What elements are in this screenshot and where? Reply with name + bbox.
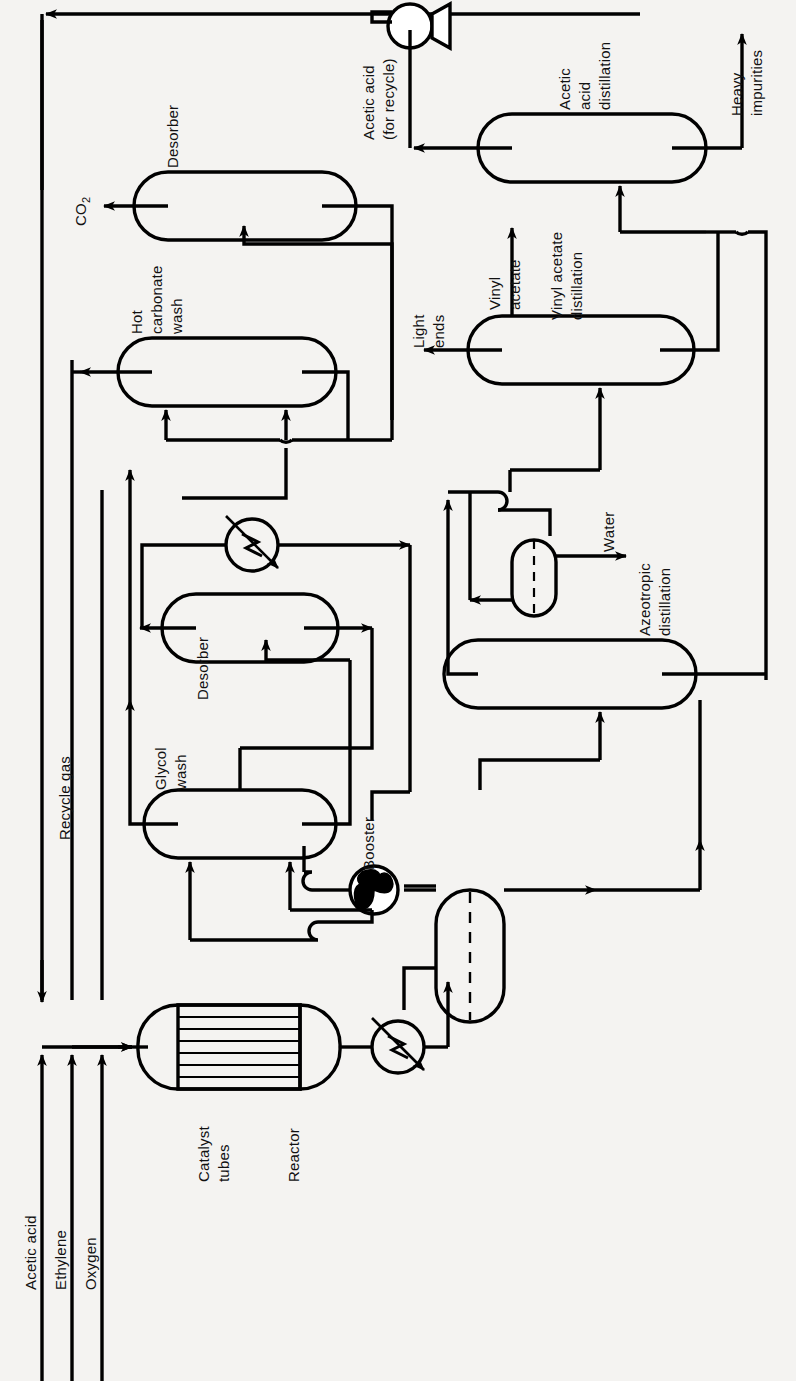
label-desorber-carbonate: Desorber [164,105,182,168]
line-jump-carbonate [280,440,292,442]
label-hot-carbonate-2: carbonate [148,265,166,334]
label-acetic-acid-col-3: distillation [596,42,614,110]
label-acetic-acid-col-2: acid [576,82,594,110]
flow-lines-canvas [0,0,796,1381]
label-acetic-acid-col-1: Acetic [556,68,574,110]
stream-separator-bottom [404,968,436,1010]
label-acetic-acid-recycle-1: Acetic acid [360,65,378,140]
label-hot-carbonate-1: Hot [128,310,146,334]
label-catalyst-tubes-2: tubes [215,1144,233,1182]
stream-glycol-loop-to-wash [372,792,410,820]
co2-text: CO [72,203,89,226]
line-jump-heavy [736,232,748,234]
stream-feed-from-azeo [748,232,766,680]
label-desorber-glycol: Desorber [194,637,212,700]
label-light-ends-1: Light [410,314,428,348]
label-reactor: Reactor [285,1128,303,1182]
reactor-cooler-zigzag [388,1036,408,1058]
glycol-heater-zigzag [242,534,262,556]
stream-azeo-to-decanter [498,510,550,536]
stream-glycol-rich [302,690,350,824]
label-vinyl-acetate-out-1: Vinyl [486,277,504,310]
label-heavy-2: impurities [748,50,766,116]
co2-subscript: 2 [80,197,92,203]
label-glycol-wash-2: wash [172,754,190,790]
label-glycol-wash: Glycol [152,747,170,790]
label-ethylene-feed: Ethylene [52,1230,70,1290]
process-flow-diagram: Acetic acid Ethylene Oxygen Catalyst tub… [0,0,796,1381]
label-recycle-gas: Recycle gas [56,756,74,840]
label-heavy-1: Heavy [728,72,746,116]
line-jump-booster [303,872,320,890]
reactor-cooler-diag [372,1018,424,1070]
label-water: Water [600,512,618,552]
acetic-acid-dist-shell [478,114,706,182]
stream-azeo-feed-run [480,760,600,790]
label-azeotropic-2: distillation [656,568,674,636]
azeo-dist-shell [444,640,696,708]
label-oxygen-feed: Oxygen [82,1237,100,1290]
line-jump-azeo [498,492,507,510]
label-azeotropic-1: Azeotropic [636,563,654,636]
stream-carbonate-to-desorber [244,226,392,440]
glycol-heater-diag [226,516,278,568]
label-booster: Booster [360,817,378,870]
line-jump-glycol [309,910,372,940]
label-catalyst-tubes: Catalyst [195,1126,213,1182]
stream-carbonate-liq-down [182,448,286,498]
reactor-right-head [300,1005,340,1089]
stream-heater-left [142,545,226,628]
label-acetic-acid-recycle-2: (for recycle) [380,58,398,140]
label-vinyl-acetate-col-1: Vinyl acetate [548,232,566,320]
stream-desorber-liq-down [240,628,372,748]
label-hot-carbonate-3: wash [168,298,186,334]
pump-nozzle [432,4,450,48]
stream-glycol-rich-to-desorber [266,640,350,660]
label-vinyl-acetate-out-2: acetate [506,259,524,310]
label-light-ends-2: ends [430,315,448,348]
label-co2: CO2 [72,197,93,226]
label-vinyl-acetate-col-2: distillation [568,252,586,320]
label-acetic-acid-feed: Acetic acid [22,1215,40,1290]
